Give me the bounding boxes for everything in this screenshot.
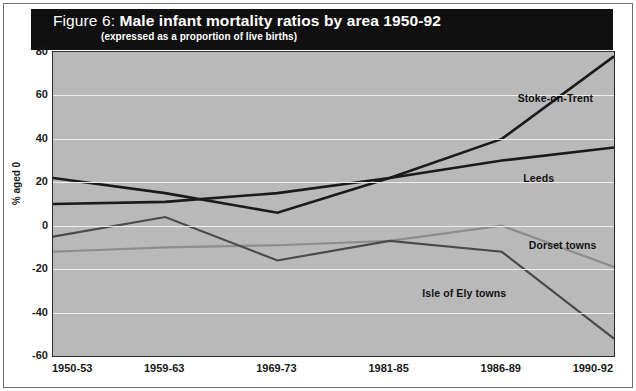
series-label-stoke-on-trent: Stoke-on-Trent — [518, 92, 593, 104]
series-label-leeds: Leeds — [523, 172, 554, 184]
y-axis-ticks: 806040200-20-40-60 — [0, 51, 48, 355]
y-tick-label: 40 — [2, 132, 48, 144]
y-tick-label: 80 — [2, 45, 48, 57]
y-tick-label: -20 — [2, 262, 48, 274]
figure-subtitle: (expressed as a proportion of live birth… — [101, 31, 613, 42]
gridline — [53, 269, 614, 270]
y-tick-label: 0 — [2, 219, 48, 231]
y-tick-label: -40 — [2, 306, 48, 318]
gridline — [53, 313, 614, 314]
series-label-isle-of-ely-towns: Isle of Ely towns — [422, 287, 506, 299]
y-tick-label: 60 — [2, 88, 48, 100]
figure-title-banner: Figure 6: Male infant mortality ratios b… — [31, 9, 613, 50]
page-title: Male infant mortality ratios by area 195… — [120, 12, 441, 29]
x-tick-label: 1990-92 — [573, 362, 613, 374]
figure-number: Figure 6: — [53, 12, 115, 29]
x-tick-label: 1950-53 — [52, 362, 92, 374]
figure-container: Figure 6: Male infant mortality ratios b… — [0, 0, 636, 391]
gridline — [53, 139, 614, 140]
y-tick-label: -60 — [2, 349, 48, 361]
x-tick-label: 1986-89 — [481, 362, 521, 374]
y-tick-label: 20 — [2, 175, 48, 187]
x-tick-label: 1959-63 — [144, 362, 184, 374]
x-tick-label: 1969-73 — [256, 362, 296, 374]
series-line-stoke-on-trent — [53, 56, 614, 212]
x-axis-ticks: 1950-531959-631969-731981-851986-891990-… — [0, 362, 636, 380]
x-tick-label: 1981-85 — [368, 362, 408, 374]
gridline — [53, 226, 614, 227]
series-label-dorset-towns: Dorset towns — [529, 239, 597, 251]
